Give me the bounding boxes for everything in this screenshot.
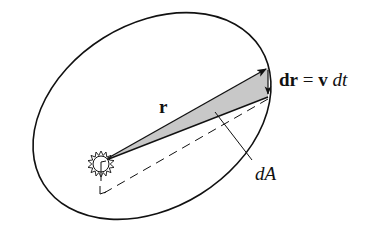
right-angle-mark xyxy=(100,186,106,194)
label-dt: dt xyxy=(332,69,347,90)
label-dr-equation: dr = v dt xyxy=(279,69,347,91)
position-vector-r xyxy=(101,69,266,162)
label-equals: = xyxy=(303,69,314,90)
label-r: r xyxy=(159,96,167,118)
label-dA: dA xyxy=(255,163,276,185)
position-vector-r-plus-dr xyxy=(101,97,268,162)
label-dr: dr xyxy=(279,69,298,90)
leader-line xyxy=(215,112,252,160)
sun-icon xyxy=(88,151,114,181)
elliptical-orbit xyxy=(0,0,309,231)
orbit-diagram xyxy=(0,0,379,231)
label-v: v xyxy=(318,69,328,90)
